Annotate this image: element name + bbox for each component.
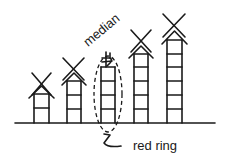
tower-1 bbox=[29, 73, 54, 123]
tower-3-median bbox=[94, 52, 122, 132]
broken-blades-icon bbox=[102, 52, 112, 67]
roof-icon bbox=[29, 86, 54, 98]
roof-icon bbox=[129, 46, 153, 58]
roof-icon bbox=[162, 31, 187, 44]
tower-4 bbox=[129, 30, 153, 123]
tower-2 bbox=[62, 58, 86, 123]
red-ring-label: red ring bbox=[133, 138, 177, 153]
windmill-blades-icon bbox=[32, 73, 51, 95]
pointer-squiggle-icon bbox=[104, 134, 121, 147]
windmill-blades-icon bbox=[63, 58, 84, 80]
windmill-blades-icon bbox=[163, 14, 185, 37]
windmill-median-diagram: median red ring bbox=[0, 0, 226, 164]
median-label: median bbox=[80, 10, 122, 49]
windmill-blades-icon bbox=[131, 30, 151, 52]
tower-5 bbox=[162, 14, 187, 123]
